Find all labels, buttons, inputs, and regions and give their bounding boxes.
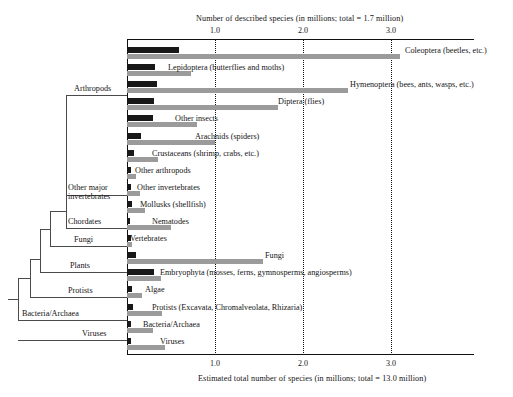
described-bar <box>127 167 131 173</box>
bar-row: Crustaceans (shrimp, crabs, etc.) <box>127 150 474 163</box>
bar-row: Fungi <box>127 252 474 265</box>
estimated-bar <box>127 105 278 110</box>
tree-branch-animals <box>50 211 67 212</box>
described-bar <box>127 252 136 258</box>
bar-row-label: Hymenoptera (bees, ants, wasps, etc.) <box>350 80 474 89</box>
bar-row: Nematodes <box>127 218 474 231</box>
tree-tip-fungi <box>50 246 127 247</box>
tree-node-arthropod-clade <box>66 95 67 195</box>
described-bar <box>127 201 132 207</box>
tree-label-protists: Protists <box>68 286 93 295</box>
described-bar <box>127 115 153 121</box>
tree-tip-bacteria-archaea <box>18 320 127 321</box>
estimated-bar <box>127 276 161 281</box>
bar-row: Bacteria/Archaea <box>127 321 474 334</box>
estimated-bar <box>127 293 142 298</box>
bar-row: Diptera (flies) <box>127 98 474 111</box>
bar-row-label: Diptera (flies) <box>278 97 324 106</box>
tree-label-viruses: Viruses <box>82 329 107 338</box>
bar-row-label: Algae <box>145 285 165 294</box>
tree-tip-viruses <box>18 340 127 341</box>
described-bar <box>127 321 131 327</box>
top-tick-2.0: 2.0 <box>298 26 308 35</box>
tree-label-plants: Plants <box>70 261 90 270</box>
described-bar <box>127 81 157 87</box>
bar-row: Other insects <box>127 115 474 128</box>
tree-tip-chordates <box>66 228 127 229</box>
bar-row-label: Protists (Excavata, Chromalveolata, Rhiz… <box>152 303 302 312</box>
tree-label-invertebrates: invertebrates <box>68 192 110 201</box>
tree-label-fungi: Fungi <box>74 235 93 244</box>
bar-row: Other invertebrates <box>127 184 474 197</box>
described-bar <box>127 47 179 53</box>
tree-tip-plants <box>40 272 127 273</box>
bottom-tick-2.0: 2.0 <box>298 359 308 368</box>
estimated-bar <box>127 54 400 59</box>
described-bar <box>127 184 131 190</box>
tree-branch-fungi-animals <box>40 229 51 230</box>
bar-row: Mollusks (shellfish) <box>127 201 474 214</box>
described-bar <box>127 64 155 70</box>
estimated-bar <box>127 259 263 264</box>
bar-row: Arachnids (spiders) <box>127 133 474 146</box>
bar-row-label: Nematodes <box>152 217 189 226</box>
bar-row: Algae <box>127 286 474 299</box>
bar-row-label: Bacteria/Archaea <box>143 320 200 329</box>
described-bar <box>127 338 131 344</box>
bar-row-label: Other insects <box>175 114 218 123</box>
described-bar <box>127 98 154 104</box>
bar-row-label: Viruses <box>160 337 185 346</box>
top-axis-title: Number of described species (in millions… <box>196 14 403 23</box>
species-diversity-figure: Number of described species (in millions… <box>0 0 513 397</box>
bar-row-label: Crustaceans (shrimp, crabs, etc.) <box>152 149 259 158</box>
bar-row-label: Vertebrates <box>130 234 167 243</box>
bar-row-label: Other arthropods <box>135 166 191 175</box>
described-bar <box>127 133 141 139</box>
described-bar <box>127 269 154 275</box>
bar-row: Other arthropods <box>127 167 474 180</box>
bar-row: Embryophyta (mosses, ferns, gymnosperms,… <box>127 269 474 282</box>
tree-branch-eukaryotes <box>18 278 31 279</box>
bottom-tick-3.0: 3.0 <box>386 359 396 368</box>
bottom-tick-1.0: 1.0 <box>210 359 220 368</box>
bar-row: Coleoptera (beetles, etc.) <box>127 47 474 60</box>
described-bar <box>127 218 130 224</box>
tree-tip-protists <box>30 297 127 298</box>
bottom-axis-title: Estimated total number of species (in mi… <box>198 374 426 383</box>
bar-row-label: Mollusks (shellfish) <box>140 200 206 209</box>
top-tick-1.0: 1.0 <box>210 26 220 35</box>
bar-row-label: Coleoptera (beetles, etc.) <box>405 46 487 55</box>
tree-label-chordates: Chordates <box>68 217 101 226</box>
tree-root-stem <box>8 299 19 300</box>
bottom-axis-line <box>127 354 474 355</box>
estimated-bar <box>127 88 348 93</box>
top-axis-line <box>127 39 474 40</box>
tree-node-eukaryote-a <box>40 229 41 272</box>
bar-row: Viruses <box>127 338 474 351</box>
bar-row: Hymenoptera (bees, ants, wasps, etc.) <box>127 81 474 94</box>
bar-row: Protists (Excavata, Chromalveolata, Rhiz… <box>127 304 474 317</box>
tree-label-arthropods: Arthropods <box>74 84 111 93</box>
bar-row-label: Lepidoptera (butterflies and moths) <box>168 63 284 72</box>
bar-row-label: Other invertebrates <box>137 183 200 192</box>
bar-row-label: Fungi <box>265 251 284 260</box>
tree-branch-plants <box>30 259 41 260</box>
tree-label-other-major: Other major <box>68 183 108 192</box>
tree-label-bacteria-archaea: Bacteria/Archaea <box>22 309 79 318</box>
bar-row: Vertebrates <box>127 235 474 248</box>
described-bar <box>127 286 132 292</box>
bar-row-label: Arachnids (spiders) <box>195 132 259 141</box>
described-bar <box>127 304 133 310</box>
tree-tip-arthropods <box>66 95 127 96</box>
top-tick-3.0: 3.0 <box>386 26 396 35</box>
described-bar <box>127 150 134 156</box>
bar-row-label: Embryophyta (mosses, ferns, gymnosperms,… <box>160 268 352 277</box>
cladogram: ArthropodsOther majorinvertebratesChorda… <box>0 0 130 397</box>
bar-chart-plot: 1.02.03.0 1.02.03.0 Coleoptera (beetles,… <box>127 39 474 355</box>
bar-row: Lepidoptera (butterflies and moths) <box>127 64 474 77</box>
